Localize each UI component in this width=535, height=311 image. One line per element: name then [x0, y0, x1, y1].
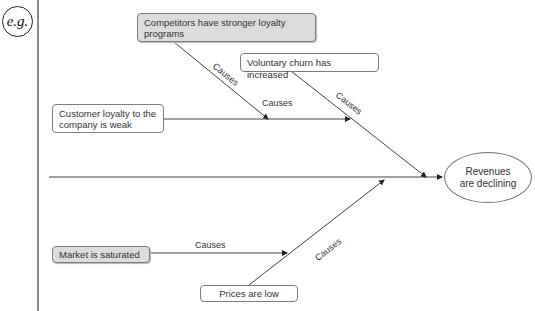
cause-market-text: Market is saturated [59, 249, 140, 260]
edge-label-market-prices: Causes [195, 240, 226, 250]
cause-prices-text: Prices are low [219, 288, 279, 299]
cause-competitors-text: Competitors have stronger loyalty progra… [144, 17, 286, 39]
cause-market-box[interactable]: Market is saturated [52, 246, 150, 263]
diagram-lines [0, 0, 535, 311]
edge-prices-effect [249, 180, 384, 285]
effect-text: Revenues are declining [458, 166, 518, 190]
edge-label-loyalty-churn: Causes [262, 98, 293, 108]
edge-churn-effect [291, 71, 426, 177]
cause-loyalty-text: Customer loyalty to the company is weak [59, 108, 156, 130]
cause-churn-box[interactable]: Voluntary churn has increased [240, 53, 379, 72]
cause-prices-box[interactable]: Prices are low [200, 285, 298, 302]
cause-competitors-box[interactable]: Competitors have stronger loyalty progra… [137, 13, 316, 42]
cause-loyalty-box[interactable]: Customer loyalty to the company is weak [52, 104, 164, 133]
effect-ellipse[interactable]: Revenues are declining [444, 152, 532, 203]
